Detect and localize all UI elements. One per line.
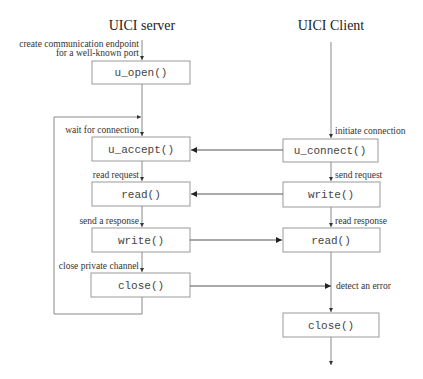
server-write-label: write() [118,235,164,247]
client-read-label: read() [311,235,351,247]
server-note-close-channel: close private channel [59,261,140,271]
client-write-label: write() [308,189,354,201]
server-note-send-response: send a response [79,216,139,226]
uici-client-server-diagram: UICI server UICI Client create communica… [0,0,423,379]
client-note-send-request: send request [335,170,383,180]
client-note-read-response: read response [335,216,387,226]
server-title: UICI server [109,18,176,33]
client-title: UICI Client [298,18,365,33]
server-note-read-request: read request [93,170,140,180]
client-close-label: close() [308,320,354,332]
server-u-open-label: u_open() [115,67,168,79]
server-u-accept-label: u_accept() [108,144,174,156]
client-note-detect-error: detect an error [336,281,392,291]
client-column: initiate connection u_connect() send req… [283,42,406,365]
server-note-wait: wait for connection [65,125,139,135]
server-note-port: for a well-known port [56,48,139,58]
server-read-label: read() [121,189,161,201]
messages [190,150,331,286]
client-note-initiate: initiate connection [335,126,406,136]
server-column: create communication endpoint for a well… [19,39,190,314]
server-close-label: close() [118,280,164,292]
client-u-connect-label: u_connect() [294,145,367,157]
